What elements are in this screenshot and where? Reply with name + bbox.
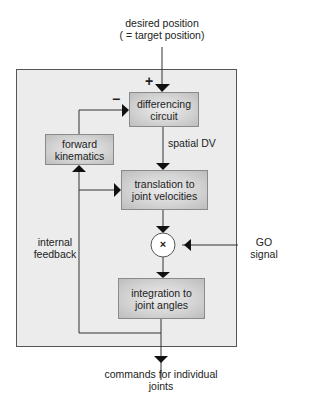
arrow-head-icon <box>122 104 129 117</box>
arrow-head-icon <box>154 356 168 363</box>
differencing-circuit-block: differencingcircuit <box>129 92 199 127</box>
output-label: commands for individual joints <box>91 368 231 392</box>
arrow-head-icon <box>155 84 170 92</box>
translation-block: translation tojoint velocities <box>121 170 208 210</box>
arrow-head-icon <box>72 165 86 172</box>
forward-kinematics-block: forwardkinematics <box>45 134 114 165</box>
spatial-dv-label: spatial DV <box>168 137 216 149</box>
go-signal-label: GO signal <box>246 236 282 260</box>
input-label: desired position ( = target position) <box>92 17 232 41</box>
arrow-head-icon <box>156 226 170 233</box>
integration-block: integration tojoint angles <box>118 278 205 319</box>
plus-sign: + <box>145 75 153 87</box>
multiply-icon: × <box>155 238 171 250</box>
arrow-head-icon <box>184 239 191 251</box>
arrow-head-icon <box>156 163 170 170</box>
internal-feedback-label: internal feedback <box>31 236 79 260</box>
arrow-head-icon <box>114 183 121 197</box>
minus-sign: − <box>112 93 120 105</box>
